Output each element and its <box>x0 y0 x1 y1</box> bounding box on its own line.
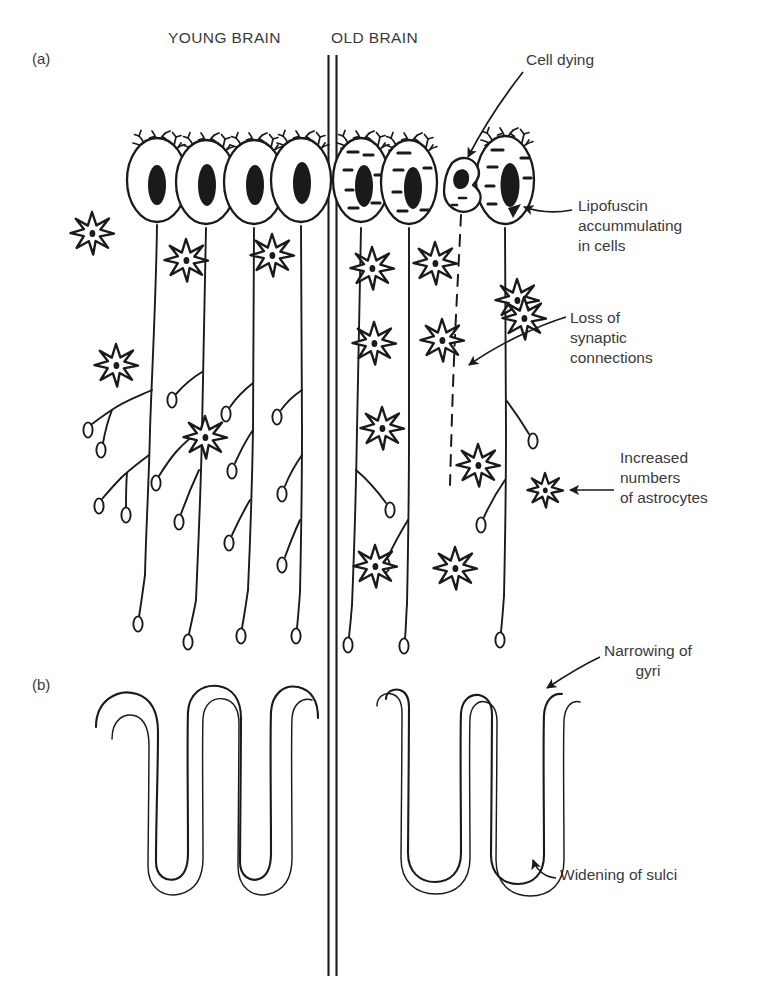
synaptic-bouton <box>236 628 245 643</box>
astrocyte-star-icon <box>184 416 228 459</box>
synaptic-bouton <box>167 392 176 407</box>
synaptic-bouton <box>272 409 281 424</box>
astrocyte-star-icon <box>251 234 295 277</box>
astrocyte-star-icon <box>457 444 501 487</box>
figure-canvas: YOUNG BRAIN OLD BRAIN (a) (b) Cell dying… <box>0 0 774 993</box>
young-brain-neuron-group <box>71 131 332 650</box>
astrocyte-star-icon <box>421 319 465 362</box>
synaptic-bouton <box>227 463 236 478</box>
synaptic-bouton <box>277 486 286 501</box>
synaptic-bouton <box>221 406 230 421</box>
synaptic-bouton <box>83 422 92 437</box>
synaptic-bouton <box>495 632 504 647</box>
astrocyte-star-icon <box>528 473 564 508</box>
astrocyte-star-icon <box>165 239 209 282</box>
astrocyte-star-icon <box>351 247 395 290</box>
synaptic-bouton <box>224 535 233 550</box>
synaptic-bouton <box>133 616 142 631</box>
synaptic-bouton <box>528 433 537 448</box>
old-brain-neuron-group <box>333 128 563 654</box>
neuron-icon <box>381 133 437 225</box>
astrocyte-star-icon <box>353 322 397 365</box>
synaptic-bouton <box>183 634 192 649</box>
astrocyte-star-icon <box>354 545 398 588</box>
astrocyte-star-icon <box>414 242 458 285</box>
synaptic-bouton <box>385 502 394 517</box>
astrocyte-star-icon <box>95 344 139 387</box>
astrocyte-star-icon <box>434 547 478 590</box>
synaptic-bouton <box>174 514 183 529</box>
old-brain-gyri-icon <box>377 689 580 896</box>
synaptic-bouton <box>121 507 130 522</box>
synaptic-bouton <box>94 498 103 513</box>
young-brain-gyri-icon <box>96 686 318 895</box>
astrocyte-star-icon <box>71 212 115 255</box>
synaptic-bouton <box>399 638 408 653</box>
synaptic-bouton <box>343 637 352 652</box>
brain-aging-illustration <box>0 0 774 993</box>
astrocyte-star-icon <box>361 407 405 450</box>
synaptic-bouton <box>277 557 286 572</box>
synaptic-bouton <box>476 517 485 532</box>
synaptic-bouton <box>151 475 160 490</box>
leader-arrow-icon <box>547 657 600 688</box>
leader-arrow-icon <box>524 207 572 212</box>
synaptic-bouton <box>291 628 300 643</box>
neuron-icon <box>271 131 331 223</box>
synaptic-bouton <box>96 442 105 457</box>
neuron-icon <box>476 128 534 225</box>
